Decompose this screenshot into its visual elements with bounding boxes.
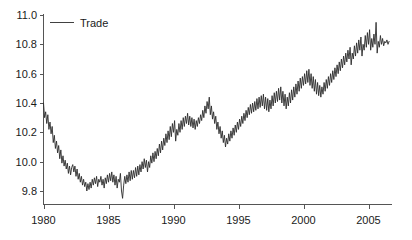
y-axis-tick-mark-group — [40, 16, 44, 192]
x-axis-tick-label: 1990 — [161, 214, 185, 226]
x-axis-tick-mark-group — [44, 205, 369, 210]
trade-line-chart: 9.810.010.210.410.610.811.0 198019851990… — [0, 0, 412, 240]
series-line-trade — [44, 22, 390, 198]
x-axis-tick-label: 2005 — [356, 214, 380, 226]
y-axis-tick-label: 10.8 — [16, 38, 37, 50]
y-axis-tick-label: 10.6 — [16, 68, 37, 80]
chart-container: 9.810.010.210.410.610.811.0 198019851990… — [0, 0, 412, 240]
data-series-group — [44, 22, 390, 198]
y-axis-tick-label: 9.8 — [22, 185, 37, 197]
y-axis-tick-label: 10.2 — [16, 126, 37, 138]
y-axis-tick-label-group: 9.810.010.210.410.610.811.0 — [16, 9, 37, 197]
y-axis-tick-label: 10.0 — [16, 156, 37, 168]
legend-label-trade: Trade — [80, 17, 108, 29]
y-axis-tick-label: 11.0 — [16, 9, 37, 21]
x-axis-tick-label: 1995 — [226, 214, 250, 226]
x-axis-tick-label-group: 198019851990199520002005 — [31, 214, 380, 226]
x-axis-tick-label: 2000 — [291, 214, 315, 226]
x-axis-tick-label: 1985 — [96, 214, 120, 226]
chart-legend: Trade — [50, 17, 108, 29]
y-axis-tick-label: 10.4 — [16, 97, 37, 109]
x-axis-tick-label: 1980 — [31, 214, 55, 226]
